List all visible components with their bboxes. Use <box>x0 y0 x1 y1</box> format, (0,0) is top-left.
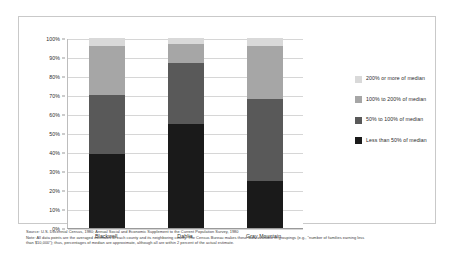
legend-swatch-icon <box>355 96 362 103</box>
y-axis-tick-label: 40% <box>49 150 60 156</box>
y-axis-tick-mark <box>62 39 65 40</box>
y-axis-tick-mark <box>62 210 65 211</box>
y-axis: 0%10%20%30%40%50%60%70%80%90%100% <box>19 39 65 229</box>
bar-segment[interactable] <box>247 181 283 229</box>
bar-segment[interactable] <box>89 154 125 228</box>
legend-item[interactable]: 50% to 100% of median <box>355 116 451 124</box>
y-axis-tick-label: 70% <box>49 93 60 99</box>
stacked-bar[interactable] <box>89 39 125 228</box>
legend-item-label: Less than 50% of median <box>366 137 427 144</box>
bar-group[interactable] <box>168 39 204 228</box>
y-axis-tick-label: 80% <box>49 74 60 80</box>
legend-swatch-icon <box>355 76 362 83</box>
legend-swatch-icon <box>355 137 362 144</box>
legend-swatch-icon <box>355 117 362 124</box>
bar-segment[interactable] <box>168 63 204 124</box>
y-axis-tick-mark <box>62 153 65 154</box>
legend-item[interactable]: Less than 50% of median <box>355 137 451 145</box>
legend-item[interactable]: 100% to 200% of median <box>355 96 451 104</box>
y-axis-tick-mark <box>62 58 65 59</box>
y-axis-tick-mark <box>62 134 65 135</box>
y-axis-tick-label: 50% <box>49 131 60 137</box>
y-axis-tick-label: 100% <box>46 36 60 42</box>
legend-item[interactable]: 200% or more of median <box>355 75 451 83</box>
y-axis-tick-label: 10% <box>49 207 60 213</box>
y-axis-tick-label: 20% <box>49 188 60 194</box>
bar-segment[interactable] <box>247 38 283 46</box>
bar-segment[interactable] <box>89 38 125 46</box>
bar-segment[interactable] <box>89 95 125 154</box>
chart-frame: 0%10%20%30%40%50%60%70%80%90%100% Blackw… <box>18 16 436 224</box>
stacked-bar[interactable] <box>247 39 283 228</box>
bar-segment[interactable] <box>247 46 283 99</box>
y-axis-tick-label: 30% <box>49 169 60 175</box>
bar-segment[interactable] <box>89 46 125 95</box>
footnote-note-line-2: than $10,000"); thus, percentages of med… <box>26 240 430 246</box>
legend-item-label: 50% to 100% of median <box>366 116 423 123</box>
bar-segment[interactable] <box>247 99 283 181</box>
legend-item-label: 200% or more of median <box>366 75 425 82</box>
bar-segment[interactable] <box>168 38 204 44</box>
bar-group[interactable] <box>89 39 125 228</box>
y-axis-tick-mark <box>62 96 65 97</box>
stacked-bar[interactable] <box>168 39 204 228</box>
chart-legend: 200% or more of median100% to 200% of me… <box>355 75 451 157</box>
y-axis-tick-mark <box>62 191 65 192</box>
y-axis-tick-mark <box>62 172 65 173</box>
y-axis-tick-label: 90% <box>49 55 60 61</box>
chart-figure: 0%10%20%30%40%50%60%70%80%90%100% Blackw… <box>0 0 454 270</box>
bar-segment[interactable] <box>168 124 204 229</box>
plot-area <box>67 39 303 229</box>
legend-item-label: 100% to 200% of median <box>366 96 426 103</box>
y-axis-tick-mark <box>62 115 65 116</box>
bar-group[interactable] <box>247 39 283 228</box>
y-axis-tick-mark <box>62 77 65 78</box>
bar-segment[interactable] <box>168 44 204 63</box>
y-axis-tick-label: 60% <box>49 112 60 118</box>
chart-footnote: Source: U.S. Decennial Census, 1980; Ann… <box>26 229 430 246</box>
bar-series-container <box>68 39 303 228</box>
